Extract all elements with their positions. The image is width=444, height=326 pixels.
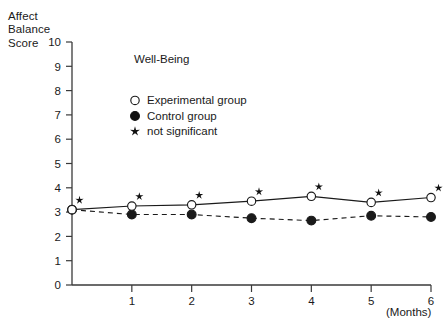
- star-icon: [75, 196, 83, 204]
- filled-circle-icon: [307, 216, 316, 225]
- y-tick-label: 0: [55, 279, 61, 291]
- open-circle-icon: [187, 201, 195, 209]
- open-circle-icon: [247, 197, 255, 205]
- x-tick-label: 3: [248, 295, 254, 307]
- y-tick-label: 6: [55, 133, 61, 145]
- y-tick-label: 7: [55, 109, 61, 121]
- star-icon: [315, 183, 323, 191]
- filled-circle-icon: [187, 210, 196, 219]
- x-tick-label: 2: [188, 295, 194, 307]
- filled-circle-icon: [127, 210, 136, 219]
- star-icon: [130, 126, 140, 135]
- panel-title: Well-Being: [134, 53, 189, 65]
- legend-entry-label: Experimental group: [147, 94, 247, 106]
- star-icon: [135, 192, 143, 200]
- x-tick-label: 5: [368, 295, 374, 307]
- x-tick-label: 4: [308, 295, 315, 307]
- open-circle-icon: [307, 192, 315, 200]
- x-axis-ticks: 123456: [129, 285, 435, 307]
- y-tick-label: 4: [55, 182, 62, 194]
- filled-circle-icon: [131, 112, 140, 121]
- filled-circle-icon: [367, 211, 376, 220]
- legend-entry-label: Control group: [147, 110, 217, 122]
- x-tick-label: 1: [129, 295, 135, 307]
- star-icon: [375, 189, 383, 197]
- filled-circle-icon: [247, 214, 256, 223]
- filled-circle-icon: [427, 213, 436, 222]
- open-circle-icon: [427, 193, 435, 201]
- y-tick-label: 8: [55, 85, 61, 97]
- affect-balance-score-chart: AffectBalanceScore 012345678910 123456 W…: [0, 0, 444, 326]
- star-icon: [255, 187, 263, 195]
- open-circle-icon: [367, 198, 375, 206]
- y-tick-label: 5: [55, 158, 61, 170]
- star-icon: [434, 184, 442, 192]
- open-circle-icon: [128, 202, 136, 210]
- y-axis-ticks: 012345678910: [48, 36, 72, 291]
- y-tick-label: 3: [55, 206, 61, 218]
- series-control-group: [68, 205, 436, 225]
- y-tick-label: 10: [48, 36, 61, 48]
- y-tick-label: 2: [55, 231, 61, 243]
- y-tick-label: 1: [55, 255, 61, 267]
- star-icon: [195, 191, 203, 199]
- legend-entry-label: not significant: [147, 125, 218, 137]
- plot-area: 012345678910 123456 Well-Being Experimen…: [0, 0, 444, 326]
- y-tick-label: 9: [55, 61, 61, 73]
- open-circle-icon: [131, 96, 139, 104]
- x-axis-unit-label: (Months): [386, 306, 432, 318]
- open-circle-icon: [68, 205, 76, 213]
- chart-legend: Experimental groupControl groupnot signi…: [130, 94, 247, 137]
